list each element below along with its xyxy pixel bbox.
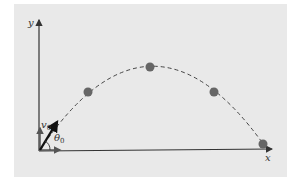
theta0-label: θ0 (54, 132, 65, 145)
x-axis-label: x (265, 152, 271, 163)
v0-label: v0 (41, 119, 51, 132)
projectile-ball (146, 63, 155, 72)
projectile-ball (210, 88, 219, 97)
y-axis-label: y (27, 17, 34, 28)
projectile-ball (259, 140, 268, 149)
trajectory-path (40, 66, 264, 150)
projectile-diagram: y x v0 θ0 (0, 0, 303, 182)
projectile-ball (84, 88, 93, 97)
x-axis (39, 149, 272, 151)
